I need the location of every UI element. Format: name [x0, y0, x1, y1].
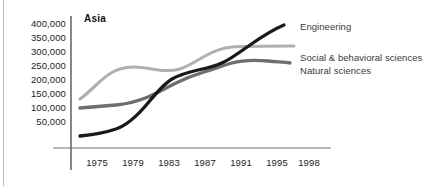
chart-figure: Asia 400,000 350,000 300,000 250,000 200…	[0, 0, 433, 186]
x-tick-label: 1998	[298, 157, 320, 168]
x-axis-tick-labels: 1975 1979 1983 1987 1991 1995 1998	[0, 0, 433, 186]
series-label-natural-sciences: Natural sciences	[300, 65, 371, 76]
x-tick-label: 1979	[122, 157, 144, 168]
series-label-social-behavioral-sciences: Social & behavioral sciences	[300, 52, 422, 63]
x-tick-label: 1995	[266, 157, 288, 168]
x-tick-label: 1987	[194, 157, 216, 168]
x-tick-label: 1975	[86, 157, 108, 168]
series-label-engineering: Engineering	[300, 21, 351, 32]
x-tick-label: 1991	[230, 157, 252, 168]
x-tick-label: 1983	[158, 157, 180, 168]
